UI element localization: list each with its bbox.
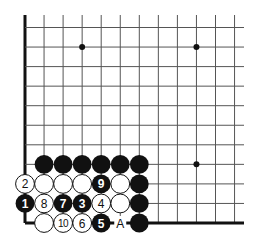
black-stone [92,155,111,174]
white-stone-disc [54,175,73,194]
move-number: 4 [98,197,105,211]
black-stone-disc [130,175,149,194]
black-stone [130,175,149,194]
black-stone [54,155,73,174]
black-stone: 1 [16,194,35,213]
point-label: A [116,217,124,231]
white-stone [35,214,54,233]
black-stone-disc [130,194,149,213]
black-stone: 5 [92,214,111,233]
move-number: 8 [41,197,48,211]
move-number: 6 [79,217,86,231]
star-point [193,161,199,167]
black-stone: 3 [73,194,92,213]
white-stone: 2 [16,175,35,194]
black-stone: 7 [54,194,73,213]
black-stone [130,214,149,233]
white-stone [111,175,130,194]
white-stone [111,194,130,213]
move-number: 10 [58,218,69,229]
white-stone-disc [111,175,130,194]
point-labels: A [114,216,126,231]
white-stone [35,175,54,194]
white-stone: 10 [54,214,73,233]
move-number: 9 [98,177,105,191]
black-stone-disc [54,155,73,174]
move-number: 3 [79,197,86,211]
stones: 29187341065 [16,155,149,232]
black-stone [130,194,149,213]
black-stone-disc [130,214,149,233]
white-stone: 6 [73,214,92,233]
white-stone-disc [73,175,92,194]
black-stone [35,155,54,174]
star-point [193,44,199,50]
black-stone-disc [35,155,54,174]
black-stone-disc [111,155,130,174]
white-stone: 8 [35,194,54,213]
move-number: 7 [60,197,67,211]
go-board: 29187341065 A [0,0,259,250]
black-stone [111,155,130,174]
move-number: 2 [22,177,29,191]
move-number: 1 [22,197,29,211]
black-stone-disc [73,155,92,174]
black-stone: 9 [92,175,111,194]
white-stone [54,175,73,194]
white-stone: 4 [92,194,111,213]
black-stone [73,155,92,174]
black-stone [130,155,149,174]
black-stone-disc [92,155,111,174]
black-stone-disc [130,155,149,174]
star-point [79,44,85,50]
white-stone-disc [111,194,130,213]
white-stone-disc [35,214,54,233]
move-number: 5 [98,217,105,231]
white-stone [73,175,92,194]
white-stone-disc [35,175,54,194]
